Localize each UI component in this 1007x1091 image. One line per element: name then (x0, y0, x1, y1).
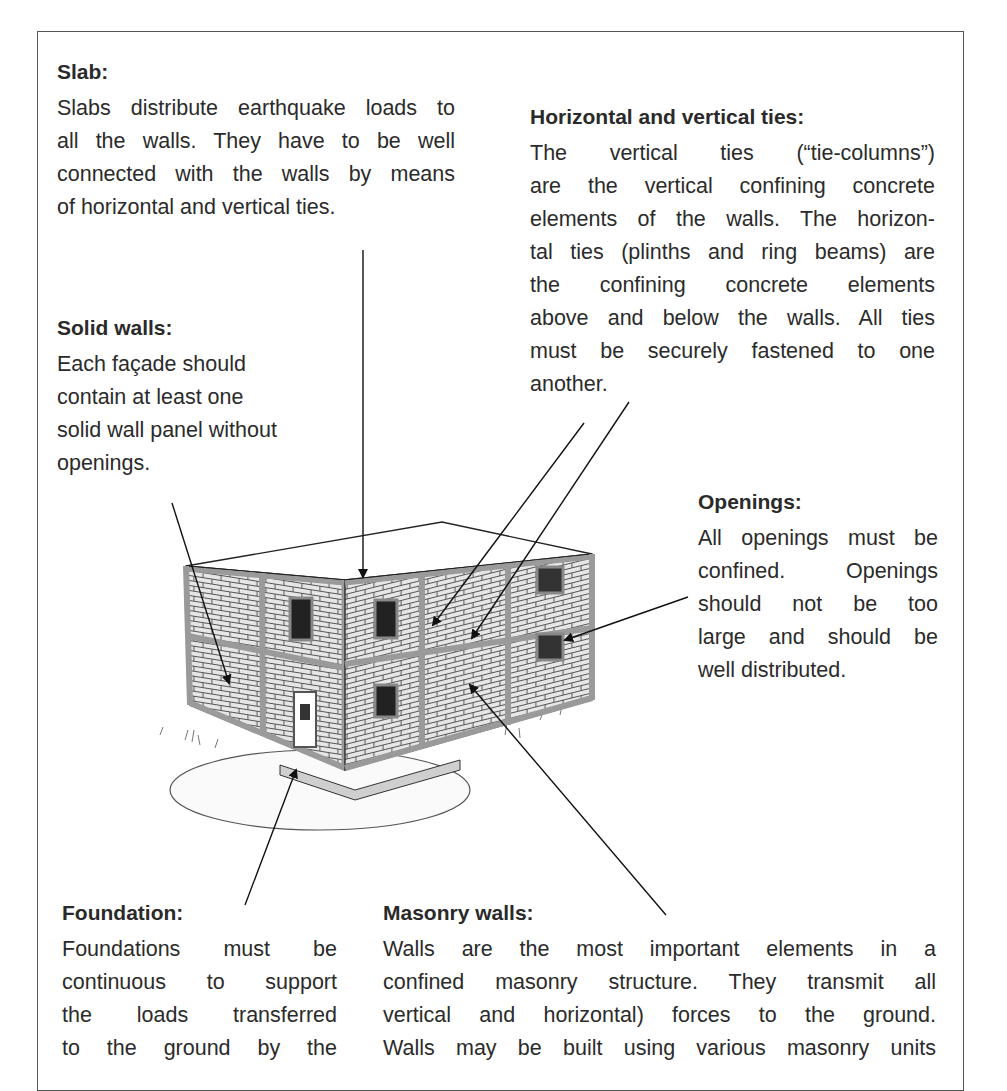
text-line: All openings must be (698, 522, 938, 555)
text-line: above and below the walls. All ties (530, 302, 935, 335)
text-line: all the walls. They have to be well (57, 125, 455, 158)
text-line: connected with the walls by means (57, 158, 455, 191)
text-line: to the ground by the (62, 1032, 337, 1065)
foundation-label: Foundation: Foundations must be continuo… (62, 899, 337, 1065)
text-line: another. (530, 368, 935, 401)
solid-walls-description: Each façade should contain at least one … (57, 348, 357, 480)
text-line: solid wall panel without (57, 414, 357, 447)
slab-description: Slabs distribute earthquake loads to all… (57, 92, 455, 224)
ties-label: Horizontal and vertical ties: The vertic… (530, 103, 935, 401)
text-line: The vertical ties (“tie-columns”) (530, 137, 935, 170)
ties-description: The vertical ties (“tie-columns”) are th… (530, 137, 935, 401)
text-line: contain at least one (57, 381, 357, 414)
slab-label: Slab: Slabs distribute earthquake loads … (57, 58, 455, 224)
solid-walls-label: Solid walls: Each façade should contain … (57, 314, 357, 480)
masonry-walls-label: Masonry walls: Walls are the most import… (383, 899, 936, 1065)
openings-label: Openings: All openings must be confined.… (698, 488, 938, 687)
text-line: well distributed. (698, 654, 938, 687)
text-line: are the vertical confining concrete (530, 170, 935, 203)
text-line: the confining concrete elements (530, 269, 935, 302)
text-line: Walls are the most important elements in… (383, 933, 936, 966)
text-line: Each façade should (57, 348, 357, 381)
openings-heading: Openings: (698, 488, 938, 516)
text-line: elements of the walls. The horizon- (530, 203, 935, 236)
slab-heading: Slab: (57, 58, 455, 86)
right-facade (345, 554, 592, 770)
left-facade (186, 566, 345, 770)
foundation-description: Foundations must be continuous to suppor… (62, 933, 337, 1065)
text-line: must be securely fastened to one (530, 335, 935, 368)
masonry-arrow (470, 685, 666, 915)
text-line: Slabs distribute earthquake loads to (57, 92, 455, 125)
text-line: should not be too (698, 588, 938, 621)
text-line: of horizontal and vertical ties. (57, 191, 455, 224)
masonry-walls-description: Walls are the most important elements in… (383, 933, 936, 1065)
ties-heading: Horizontal and vertical ties: (530, 103, 935, 131)
openings-description: All openings must be confined. Openings … (698, 522, 938, 687)
solid-walls-heading: Solid walls: (57, 314, 357, 342)
text-line: openings. (57, 447, 357, 480)
text-line: confined masonry structure. They transmi… (383, 966, 936, 999)
text-line: continuous to support (62, 966, 337, 999)
text-line: the loads transferred (62, 999, 337, 1032)
masonry-walls-heading: Masonry walls: (383, 899, 936, 927)
foundation-heading: Foundation: (62, 899, 337, 927)
text-line: tal ties (plinths and ring beams) are (530, 236, 935, 269)
text-line: confined. Openings (698, 555, 938, 588)
text-line: large and should be (698, 621, 938, 654)
text-line: Foundations must be (62, 933, 337, 966)
text-line: Walls may be built using various masonry… (383, 1032, 936, 1065)
text-line: vertical and horizontal) forces to the g… (383, 999, 936, 1032)
